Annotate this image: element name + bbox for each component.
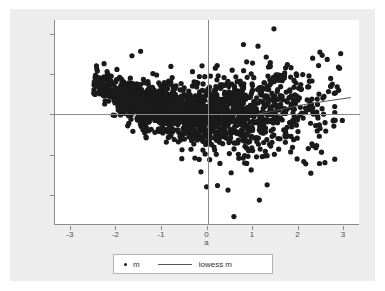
legend-dot-icon (124, 263, 127, 266)
legend-entry-points[interactable]: m (114, 260, 140, 269)
x-tick-mark (343, 226, 344, 230)
x-tick-mark (70, 226, 71, 230)
plot-wrapper: m/lowess m -2-1012 -3-2-10123 a m lowess… (10, 9, 375, 281)
legend-line-icon (158, 264, 192, 265)
x-tick-mark (115, 226, 116, 230)
x-tick-mark (252, 226, 253, 230)
legend-label-lowess: lowess m (199, 260, 232, 269)
x-axis-title: a (54, 238, 359, 247)
x-tick-mark (298, 226, 299, 230)
chart-figure: m/lowess m -2-1012 -3-2-10123 a m lowess… (10, 9, 375, 281)
scatter-canvas[interactable] (55, 20, 360, 225)
chart-legend[interactable]: m lowess m (113, 254, 273, 274)
legend-entry-smoother[interactable]: lowess m (140, 260, 232, 269)
x-tick-mark (207, 226, 208, 230)
legend-label-m: m (133, 260, 140, 269)
x-tick-mark (161, 226, 162, 230)
plot-region[interactable] (54, 20, 359, 225)
